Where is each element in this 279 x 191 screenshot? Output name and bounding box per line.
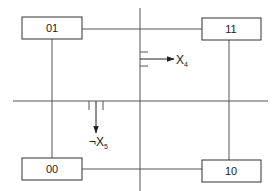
label-not-x5: ¬X5 [89, 135, 108, 150]
state-label-00: 00 [46, 163, 58, 175]
state-00: 00 [22, 158, 82, 180]
state-10: 10 [202, 160, 261, 182]
state-label-11: 11 [225, 23, 236, 35]
label-x4: X4 [176, 53, 188, 68]
state-label-01: 01 [46, 22, 58, 34]
output-x4: X4 [140, 52, 188, 68]
state-11: 11 [202, 18, 261, 40]
output-not-x5: ¬X5 [89, 101, 108, 150]
state-label-10: 10 [225, 165, 237, 177]
state-01: 01 [22, 17, 82, 39]
state-diagram: 01 11 00 10 X4 ¬X5 [0, 0, 279, 191]
